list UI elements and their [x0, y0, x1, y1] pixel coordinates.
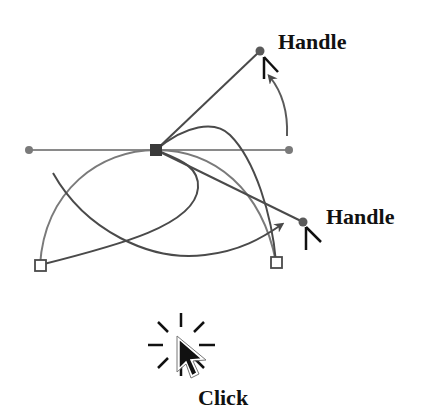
right-handle-dot-end[interactable] — [299, 218, 308, 227]
left-handle-dot[interactable] — [25, 146, 33, 154]
selected-anchor-point[interactable] — [150, 144, 162, 156]
small-cursor-icon-right — [306, 227, 321, 250]
drag-path-arrow — [53, 173, 281, 256]
right-handle-dot[interactable] — [285, 146, 293, 154]
top-handle-dot[interactable] — [256, 47, 265, 56]
arrow-cursor-icon — [179, 339, 202, 376]
top-handle-line — [156, 51, 260, 150]
bottom-right-anchor-point[interactable] — [271, 257, 282, 268]
click-label: Click — [198, 387, 248, 409]
handle-label-top: Handle — [278, 31, 346, 53]
bottom-left-anchor-point[interactable] — [35, 260, 46, 271]
handle-label-right: Handle — [326, 206, 394, 228]
small-cursor-icon-top — [264, 57, 278, 79]
rotate-arrow — [270, 77, 287, 136]
right-handle-line — [156, 150, 303, 222]
